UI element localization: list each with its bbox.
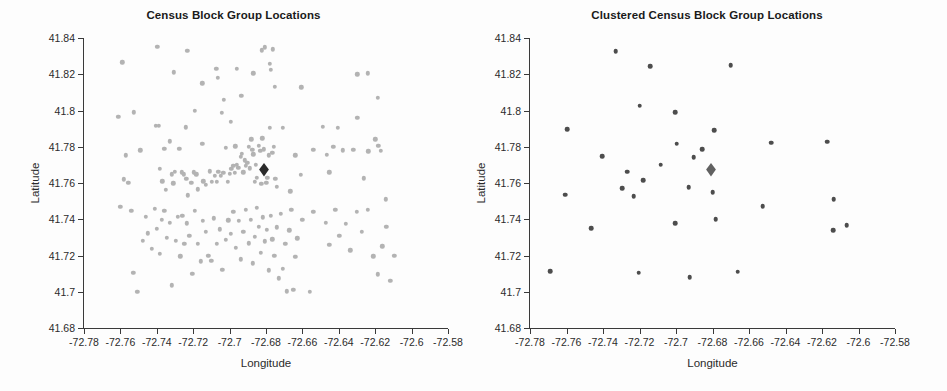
y-tick-mark xyxy=(78,328,83,329)
data-point xyxy=(311,210,315,214)
data-point xyxy=(769,140,774,145)
x-tick-label: -72.74 xyxy=(588,336,618,348)
y-tick-label: 41.74 xyxy=(49,213,75,225)
x-tick-label: -72.64 xyxy=(771,336,801,348)
data-point xyxy=(259,181,263,185)
x-tick-label: -72.76 xyxy=(106,336,136,348)
data-point xyxy=(157,124,161,128)
y-tick-mark xyxy=(78,183,83,184)
data-point xyxy=(673,110,678,115)
y-tick-mark xyxy=(524,219,529,220)
data-point xyxy=(279,212,283,216)
data-point xyxy=(155,44,159,48)
data-point xyxy=(204,183,208,187)
data-point xyxy=(244,208,248,212)
data-point xyxy=(260,136,264,140)
data-point xyxy=(239,257,243,261)
data-point xyxy=(361,176,365,180)
data-point xyxy=(209,259,213,263)
data-point xyxy=(324,153,328,157)
data-point xyxy=(281,126,285,130)
data-point xyxy=(170,283,174,287)
data-point xyxy=(270,150,274,154)
data-point xyxy=(249,137,253,141)
x-tick-mark xyxy=(859,329,860,334)
data-point xyxy=(376,144,380,148)
data-point xyxy=(120,60,124,64)
x-tick-mark xyxy=(302,329,303,334)
y-axis-label: Latitude xyxy=(475,163,487,204)
y-tick-label: 41.76 xyxy=(49,177,75,189)
data-point xyxy=(192,170,196,174)
data-point xyxy=(263,239,267,243)
data-point xyxy=(388,279,392,283)
data-point xyxy=(324,221,328,225)
data-point xyxy=(200,81,204,85)
data-point xyxy=(687,275,692,280)
data-point xyxy=(253,180,257,184)
data-point xyxy=(215,241,219,245)
data-point xyxy=(182,242,186,246)
data-point xyxy=(216,75,220,79)
data-point xyxy=(376,272,380,276)
data-point xyxy=(268,213,272,217)
data-point xyxy=(236,219,240,223)
data-point xyxy=(150,247,154,251)
data-point xyxy=(251,261,255,265)
data-point xyxy=(220,267,224,271)
y-axis-spine xyxy=(83,38,84,328)
data-point xyxy=(340,148,344,152)
data-point xyxy=(154,124,158,128)
x-tick-label: -72.62 xyxy=(360,336,390,348)
y-tick-mark xyxy=(78,147,83,148)
data-point xyxy=(565,127,570,132)
data-point xyxy=(291,288,295,292)
data-point xyxy=(187,233,191,237)
data-point xyxy=(194,172,198,176)
x-tick-label: -72.62 xyxy=(807,336,837,348)
data-point xyxy=(548,269,553,274)
y-tick-mark xyxy=(524,292,529,293)
data-point xyxy=(222,98,226,102)
y-tick-label: 41.76 xyxy=(495,177,521,189)
data-point xyxy=(184,125,188,129)
y-tick-label: 41.7 xyxy=(501,286,521,298)
x-tick-label: -72.66 xyxy=(734,336,764,348)
y-axis-spine xyxy=(529,38,530,328)
data-point xyxy=(131,271,135,275)
data-point xyxy=(213,173,217,177)
x-tick-mark xyxy=(84,329,85,334)
data-point xyxy=(180,170,184,174)
data-point xyxy=(321,125,325,129)
data-point xyxy=(636,270,641,275)
data-point xyxy=(600,154,605,159)
data-point xyxy=(648,64,653,69)
data-point xyxy=(825,139,830,144)
x-tick-mark xyxy=(193,329,194,334)
plot-title-clustered: Clustered Census Block Group Locations xyxy=(467,9,947,21)
data-point xyxy=(251,71,255,75)
data-point xyxy=(709,168,714,173)
data-point xyxy=(293,153,297,157)
data-point xyxy=(348,248,352,252)
y-tick-label: 41.78 xyxy=(49,141,75,153)
data-point xyxy=(250,148,254,152)
x-axis-label: Longitude xyxy=(241,357,292,369)
x-tick-label: -72.68 xyxy=(698,336,728,348)
data-point xyxy=(224,146,228,150)
data-point xyxy=(273,177,277,181)
y-tick-label: 41.68 xyxy=(495,322,521,334)
data-point xyxy=(204,229,208,233)
data-point xyxy=(275,184,279,188)
data-point xyxy=(327,242,331,246)
data-point xyxy=(182,172,186,176)
data-point xyxy=(175,215,179,219)
data-point xyxy=(272,253,276,257)
x-tick-mark xyxy=(412,329,413,334)
data-point xyxy=(225,180,229,184)
data-point xyxy=(641,178,646,183)
data-point xyxy=(158,252,162,256)
x-tick-mark xyxy=(120,329,121,334)
data-point xyxy=(384,197,388,201)
data-point xyxy=(231,164,235,168)
